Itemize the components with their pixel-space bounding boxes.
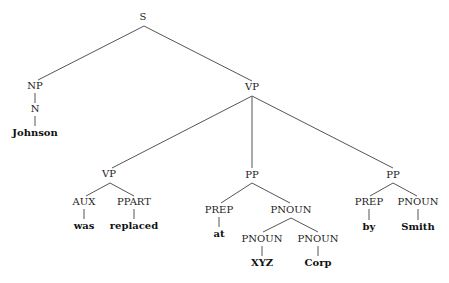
word-was: was <box>74 221 95 231</box>
node-np: NP <box>27 81 42 91</box>
node-pp-at: PP <box>245 170 258 180</box>
node-prep-at: PREP <box>205 205 233 215</box>
node-n: N <box>31 104 40 114</box>
word-replaced: replaced <box>110 221 158 231</box>
word-smith: Smith <box>401 222 435 232</box>
node-aux: AUX <box>73 197 96 207</box>
word-by: by <box>363 222 376 232</box>
node-ppart: PPART <box>117 197 151 207</box>
node-pnoun-smith: PNOUN <box>398 197 439 207</box>
parse-tree-edges <box>0 0 449 283</box>
edge-vp1-pp2 <box>252 96 393 168</box>
node-prep-by: PREP <box>355 197 383 207</box>
edge-vp2-ppart <box>110 183 134 196</box>
edge-pp2-pnoun4 <box>393 183 417 196</box>
node-pnoun-compound: PNOUN <box>271 205 312 215</box>
node-pp-by: PP <box>386 170 399 180</box>
edge-pnoun1-pnoun3 <box>291 218 318 232</box>
word-johnson: Johnson <box>12 128 58 138</box>
word-xyz: XYZ <box>251 258 273 268</box>
edge-s-vp1 <box>144 26 252 81</box>
node-pnoun-corp: PNOUN <box>298 234 339 244</box>
node-vp-main: VP <box>245 82 259 92</box>
edge-pp1-pnoun1 <box>252 183 290 203</box>
edge-pp1-prep1 <box>221 183 252 203</box>
edge-s-np <box>38 26 144 80</box>
edge-pnoun1-pnoun2 <box>263 218 291 232</box>
word-corp: Corp <box>305 258 332 268</box>
edge-pp2-prep2 <box>370 183 393 196</box>
word-at: at <box>213 229 224 239</box>
node-pnoun-xyz: PNOUN <box>242 234 283 244</box>
node-vp-sub: VP <box>102 169 116 179</box>
edge-vp1-vp2 <box>112 96 252 168</box>
node-s: S <box>140 12 147 22</box>
edge-vp2-aux <box>86 183 110 196</box>
